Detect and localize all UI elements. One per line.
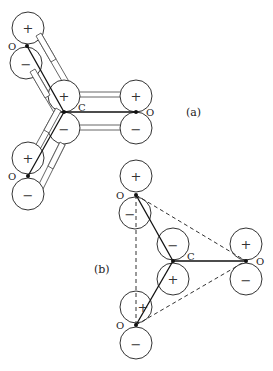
sign: + [131,89,142,104]
panel-b-text: + − − + + − + − O C O O (b) [94,169,264,352]
atom-label-c: C [78,102,86,113]
nucleus-o-right [244,259,248,263]
sign: − [168,238,179,253]
sign: + [59,89,70,104]
sign: + [138,300,149,315]
sign: − [23,188,34,203]
sign: + [23,21,34,36]
sign: + [23,151,34,166]
atom-label-o: O [8,171,16,182]
carbonate-orbital-diagram: + − + − + − + − O C O O (a) [0,0,273,371]
sign: + [168,272,179,287]
sign: − [241,273,252,288]
nucleus-c [62,110,66,114]
nucleus-o-top [25,44,29,48]
sign: − [131,337,142,352]
atom-label-o: O [116,190,124,201]
nucleus-c [171,259,175,263]
sign: − [21,57,32,72]
atom-label-c: C [187,251,195,262]
nucleus-o-top [134,193,138,197]
atom-label-o: O [8,41,16,52]
panel-label-a: (a) [186,106,201,119]
atom-label-o: O [116,320,124,331]
nucleus-o-right [134,110,138,114]
atom-label-o: O [256,256,264,267]
nucleus-o-bottom [26,174,30,178]
atom-label-o: O [146,107,154,118]
sign: − [59,122,70,137]
pi-bond-right [80,92,120,130]
sign: + [241,237,252,252]
panel-label-b: (b) [94,263,110,276]
sign: + [131,169,142,184]
nucleus-o-bottom [134,323,138,327]
sign: − [125,207,136,222]
sign: − [131,122,142,137]
